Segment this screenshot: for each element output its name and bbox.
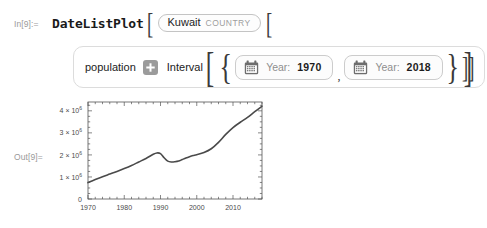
plot-svg: 01 × 1062 × 1063 × 1064 × 106 1970198019… bbox=[46, 98, 276, 220]
plot-line-series bbox=[88, 106, 262, 182]
svg-text:1 × 106: 1 × 106 bbox=[60, 172, 83, 181]
y-axis-tick-labels: 01 × 1062 × 1063 × 1064 × 106 bbox=[60, 105, 83, 202]
input-cell-label: In[9]:= bbox=[14, 19, 39, 29]
code-line-head[interactable]: DateListPlot [ Kuwait COUNTRY [ bbox=[52, 12, 275, 34]
svg-text:2000: 2000 bbox=[189, 204, 205, 211]
svg-text:4 × 106: 4 × 106 bbox=[60, 105, 83, 114]
date-list-plot[interactable]: 01 × 1062 × 1063 × 1064 × 106 1970198019… bbox=[46, 98, 276, 220]
svg-text:3 × 106: 3 × 106 bbox=[60, 127, 83, 136]
svg-text:1970: 1970 bbox=[80, 204, 96, 211]
function-name: DateListPlot bbox=[52, 16, 144, 31]
svg-text:2010: 2010 bbox=[225, 204, 241, 211]
property-label: population bbox=[85, 61, 136, 73]
interval-keyword: Interval bbox=[167, 61, 203, 73]
date-value-start: 1970 bbox=[297, 61, 321, 73]
date-key-start: Year: bbox=[266, 61, 290, 73]
code-line-property[interactable]: population Interval [ { bbox=[73, 45, 485, 89]
plus-icon[interactable] bbox=[143, 60, 158, 75]
entity-type: COUNTRY bbox=[206, 18, 251, 29]
calendar-icon bbox=[244, 60, 259, 75]
plot-frame bbox=[88, 102, 262, 199]
date-value-end: 2018 bbox=[407, 61, 431, 73]
date-chip-end[interactable]: Year: 2018 bbox=[344, 55, 442, 80]
entity-name: Kuwait bbox=[168, 16, 201, 30]
property-interval-group[interactable]: population Interval [ { bbox=[73, 46, 485, 88]
svg-text:1980: 1980 bbox=[116, 204, 132, 211]
entity-chip-kuwait[interactable]: Kuwait COUNTRY bbox=[158, 14, 261, 33]
date-chip-start[interactable]: Year: 1970 bbox=[235, 55, 333, 80]
trailing-close-brackets: ]] bbox=[462, 52, 474, 82]
svg-text:1990: 1990 bbox=[153, 204, 169, 211]
date-separator: , bbox=[337, 69, 340, 87]
plot-tick-marks bbox=[88, 102, 262, 199]
date-key-end: Year: bbox=[375, 61, 399, 73]
svg-text:2 × 106: 2 × 106 bbox=[60, 150, 83, 159]
output-cell-label: Out[9]= bbox=[14, 152, 43, 162]
svg-text:0: 0 bbox=[78, 196, 82, 203]
calendar-icon bbox=[353, 60, 368, 75]
x-axis-tick-labels: 19701980199020002010 bbox=[80, 204, 241, 211]
